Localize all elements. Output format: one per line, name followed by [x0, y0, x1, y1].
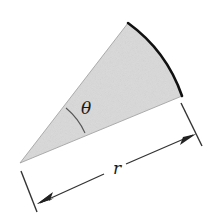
dimension-tick-left	[21, 171, 37, 212]
angle-label-theta: θ	[81, 100, 91, 117]
sector-figure	[0, 0, 214, 222]
arrowhead-right-icon	[180, 134, 196, 145]
arrowhead-left-icon-body	[37, 192, 53, 204]
sector-diagram: θ r	[0, 0, 214, 222]
radius-label-r: r	[110, 160, 124, 177]
